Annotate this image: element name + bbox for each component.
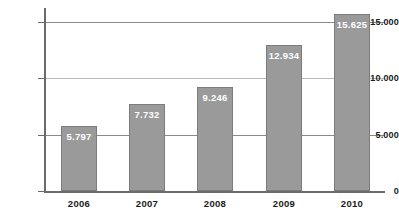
x-axis-label: 2008 [185,198,245,209]
y-axis-tick [38,78,45,79]
x-axis-label: 2010 [322,198,382,209]
bar-value-label: 9.246 [198,92,232,103]
bar-value-label: 7.732 [130,109,164,120]
bar: 15.625 [334,14,370,191]
y-axis-tick [38,22,45,23]
y-axis-line [44,8,46,193]
bar: 7.732 [129,104,165,191]
x-axis-label: 2007 [117,198,177,209]
bar-value-label: 12.934 [267,50,301,61]
bar-value-label: 15.625 [335,19,369,30]
bar-chart: 05.00010.00015.000 5.7977.7329.24612.934… [0,0,399,220]
bar: 12.934 [266,45,302,191]
bar-value-label: 5.797 [62,131,96,142]
x-axis-label: 2009 [254,198,314,209]
bar: 9.246 [197,87,233,191]
y-axis-tick [38,135,45,136]
x-axis-label: 2006 [49,198,109,209]
x-axis-line [44,191,385,193]
bar: 5.797 [61,126,97,191]
y-axis-tick [38,191,45,192]
